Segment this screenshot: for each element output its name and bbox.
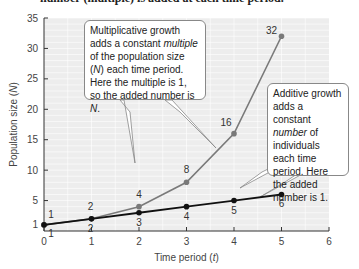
data-point-label: 2 (88, 201, 94, 212)
data-point-label: 1 (48, 209, 54, 220)
data-point-label: 32 (266, 25, 278, 36)
data-point-label: 16 (220, 117, 232, 128)
y-tick-label: 30 (27, 43, 39, 54)
y-tick-label: 1 (32, 219, 38, 230)
x-tick-label: 0 (41, 236, 47, 247)
data-point (231, 131, 237, 137)
data-point (231, 198, 237, 204)
x-tick-label: 1 (89, 236, 95, 247)
y-tick-label: 20 (27, 104, 39, 115)
additive-growth-annotation: Additive growth adds a constant number o… (267, 83, 349, 176)
y-tick-label: 35 (27, 13, 39, 24)
data-point (136, 210, 142, 216)
data-point (136, 204, 142, 210)
data-point-label: 8 (184, 164, 190, 175)
data-point-label: 5 (231, 205, 237, 216)
data-point-label: 2 (88, 223, 94, 234)
data-point-label: 4 (136, 189, 142, 200)
data-point-label: 3 (136, 217, 142, 228)
y-axis-label: Population size (N) (8, 82, 19, 167)
data-point (279, 33, 285, 39)
data-point (41, 222, 47, 228)
data-point-label: 4 (184, 211, 190, 222)
y-tick-label: 10 (27, 165, 39, 176)
y-tick-label: 15 (27, 134, 39, 145)
data-point (184, 180, 190, 186)
x-tick-label: 3 (184, 236, 190, 247)
data-point (89, 216, 95, 222)
multiplicative-growth-annotation: Multiplicative growth adds a constant mu… (84, 20, 206, 100)
x-axis-label: Time period (t) (154, 252, 219, 263)
x-tick-label: 2 (136, 236, 142, 247)
x-tick-label: 4 (231, 236, 237, 247)
data-point (184, 204, 190, 210)
x-tick-label: 6 (326, 236, 332, 247)
y-tick-label: 5 (32, 195, 38, 206)
data-point-label: 1 (48, 228, 54, 239)
x-tick-label: 5 (279, 236, 285, 247)
y-tick-label: 25 (27, 73, 39, 84)
